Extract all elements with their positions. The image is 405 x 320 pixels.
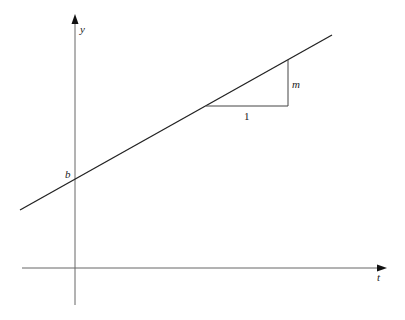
diagram-canvas: y t b 1 m <box>0 0 405 320</box>
y-axis-label: y <box>79 23 85 35</box>
run-label: 1 <box>244 110 250 122</box>
rise-label: m <box>292 78 300 90</box>
t-axis <box>22 265 387 272</box>
arrow-up-icon <box>72 14 79 24</box>
t-axis-label: t <box>377 271 381 283</box>
linear-function-line <box>20 35 332 210</box>
intercept-label: b <box>65 168 71 180</box>
y-axis <box>72 14 79 305</box>
